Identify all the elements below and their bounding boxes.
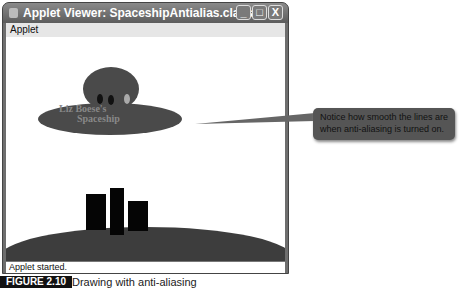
figure-caption-text: Drawing with anti-aliasing: [72, 276, 197, 288]
callout-text: Notice how smooth the lines are when ant…: [320, 111, 451, 135]
callout-pointer: [0, 0, 459, 288]
figure-label: FIGURE 2.10: [0, 276, 72, 288]
annotation-callout: Notice how smooth the lines are when ant…: [313, 108, 455, 140]
